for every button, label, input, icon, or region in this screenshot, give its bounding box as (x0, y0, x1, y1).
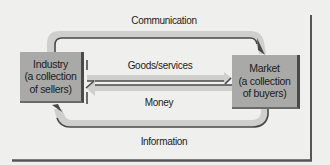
money-label: Money (145, 97, 174, 108)
industry-subtitle-line2: of sellers) (29, 83, 71, 96)
market-subtitle-line2: of buyers) (243, 87, 287, 100)
industry-title: Industry (33, 58, 68, 71)
goods-services-label: Goods/services (128, 60, 193, 71)
market-subtitle-line1: (a collection (238, 75, 290, 88)
market-box: Market (a collection of buyers) (232, 55, 300, 109)
marketing-system-diagram: Industry (a collection of sellers) Marke… (0, 0, 330, 165)
communication-label: Communication (131, 15, 197, 26)
information-label: Information (141, 136, 188, 147)
market-title: Market (249, 62, 279, 75)
industry-box: Industry (a collection of sellers) (20, 52, 84, 103)
industry-subtitle-line1: (a collection (24, 70, 76, 83)
